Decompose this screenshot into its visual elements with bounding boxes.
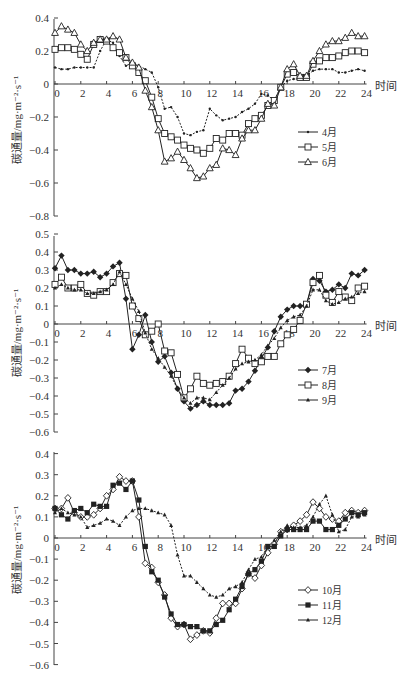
y-tick-label: 0.3 — [35, 469, 49, 481]
y-tick-label: −0.8 — [29, 210, 49, 222]
y-tick-label: 0.2 — [35, 45, 49, 57]
y-tick-label: −0.2 — [29, 111, 49, 123]
legend-label: 10月 — [322, 585, 342, 596]
x-axis-title: 时间 — [375, 80, 397, 92]
x-tick-label: 2 — [80, 541, 86, 553]
legend-item: 8月 — [298, 380, 337, 391]
y-tick-label: 0.3 — [35, 264, 49, 276]
x-tick-label: 4 — [106, 87, 112, 99]
x-tick-label: 22 — [335, 87, 346, 99]
legend-label: 4月 — [322, 127, 337, 138]
x-tick-label: 6 — [132, 87, 138, 99]
legend-label: 7月 — [322, 365, 337, 376]
x-tick-label: 14 — [232, 541, 244, 553]
y-tick-label: −0.4 — [29, 616, 49, 628]
legend-item: 5月 — [298, 142, 337, 153]
legend-label: 6月 — [322, 157, 337, 168]
x-tick-label: 0 — [54, 87, 60, 99]
y-tick-label: 0.4 — [35, 12, 49, 24]
y-axis-title: 碳通量/mg·m⁻²·s⁻¹ — [10, 289, 23, 377]
y-tick-label: 0.5 — [35, 228, 49, 240]
x-axis-title: 时间 — [375, 534, 397, 546]
series-11月 — [52, 478, 367, 633]
legend-item: 12月 — [298, 615, 342, 626]
x-axis-title: 时间 — [375, 320, 397, 332]
y-tick-label: −0.1 — [29, 553, 49, 565]
x-tick-label: 16 — [258, 327, 270, 339]
y-tick-label: −0.5 — [29, 638, 49, 650]
y-tick-label: 0.1 — [35, 511, 49, 523]
legend-label: 11月 — [322, 600, 342, 611]
y-tick-label: −0.6 — [29, 177, 49, 189]
x-tick-label: 22 — [335, 327, 346, 339]
x-tick-label: 18 — [284, 87, 296, 99]
x-tick-label: 20 — [310, 87, 322, 99]
legend-item: 7月 — [298, 365, 337, 376]
y-tick-label: 0.1 — [35, 300, 49, 312]
x-tick-label: 6 — [132, 327, 138, 339]
x-tick-label: 14 — [232, 327, 244, 339]
y-tick-label: −0.6 — [29, 659, 49, 671]
x-tick-label: 12 — [206, 327, 217, 339]
legend-item: 10月 — [298, 585, 342, 596]
x-tick-label: 24 — [361, 541, 373, 553]
x-tick-label: 12 — [206, 87, 217, 99]
x-tick-label: 2 — [80, 87, 86, 99]
legend-label: 8月 — [322, 380, 337, 391]
y-axis-title: 碳通量/mg·m⁻²·s⁻¹ — [10, 76, 23, 164]
legend-item: 11月 — [298, 600, 342, 611]
legend-label: 9月 — [322, 395, 337, 406]
legend-item: 9月 — [298, 395, 337, 406]
legend-label: 12月 — [322, 615, 342, 626]
chart-panel-3: 0.40.30.20.10−0.1−0.2−0.3−0.4−0.5−0.6024… — [10, 448, 397, 671]
x-tick-label: 20 — [310, 541, 322, 553]
y-tick-label: −0.5 — [29, 408, 49, 420]
y-axis-title: 碳通量/mg·m⁻²·s⁻¹ — [10, 506, 23, 594]
y-tick-label: −0.1 — [29, 336, 49, 348]
x-tick-label: 24 — [361, 327, 373, 339]
series-10月 — [52, 473, 368, 642]
chart-panel-2: 0.50.40.30.20.10−0.1−0.2−0.3−0.4−0.5−0.6… — [10, 228, 397, 438]
x-tick-label: 18 — [284, 541, 296, 553]
y-tick-label: −0.3 — [29, 372, 49, 384]
x-tick-label: 10 — [181, 327, 193, 339]
x-tick-label: 2 — [80, 327, 86, 339]
carbon-flux-charts: 0.40.20−0.2−0.4−0.6−0.802468101214161820… — [0, 0, 408, 685]
y-tick-label: −0.6 — [29, 426, 49, 438]
y-tick-label: −0.4 — [29, 144, 49, 156]
legend-item: 4月 — [298, 127, 337, 138]
y-tick-label: 0.2 — [35, 490, 49, 502]
y-tick-label: 0.2 — [35, 282, 49, 294]
x-tick-label: 12 — [206, 541, 217, 553]
y-tick-label: 0.4 — [35, 246, 49, 258]
x-tick-label: 24 — [361, 87, 373, 99]
x-tick-label: 0 — [54, 327, 60, 339]
y-tick-label: −0.2 — [29, 574, 49, 586]
y-tick-label: 0 — [44, 78, 50, 90]
x-tick-label: 6 — [132, 541, 138, 553]
chart-panel-1: 0.40.20−0.2−0.4−0.6−0.802468101214161820… — [10, 12, 397, 222]
y-tick-label: −0.3 — [29, 595, 49, 607]
x-tick-label: 8 — [157, 541, 163, 553]
x-tick-label: 0 — [54, 541, 60, 553]
y-tick-label: −0.2 — [29, 354, 49, 366]
series-6月 — [52, 23, 368, 181]
x-tick-label: 8 — [157, 87, 163, 99]
x-tick-label: 4 — [106, 327, 112, 339]
legend-item: 6月 — [298, 157, 337, 168]
y-tick-label: 0 — [44, 318, 50, 330]
x-tick-label: 4 — [106, 541, 112, 553]
legend-label: 5月 — [322, 142, 337, 153]
x-tick-label: 14 — [232, 87, 244, 99]
x-tick-label: 22 — [335, 541, 346, 553]
x-tick-label: 20 — [310, 327, 322, 339]
y-tick-label: 0.4 — [35, 448, 49, 460]
x-tick-label: 10 — [181, 541, 193, 553]
x-tick-label: 10 — [181, 87, 193, 99]
y-tick-label: 0 — [44, 532, 50, 544]
y-tick-label: −0.4 — [29, 390, 49, 402]
